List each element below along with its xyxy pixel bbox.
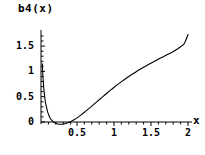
x-axis-title: x (193, 114, 200, 127)
x-axis-ticks (77, 122, 188, 126)
y-tick-label-0: 0 (0, 116, 34, 127)
x-tick-label-0.5: 0.5 (60, 127, 94, 138)
plot-figure: b4(x) (0, 0, 205, 155)
x-tick-label-1: 1 (97, 127, 131, 138)
data-series-curve (42, 34, 188, 124)
y-tick-label-1: 1 (0, 65, 34, 76)
x-tick-label-2: 2 (171, 127, 205, 138)
x-tick-label-1.5: 1.5 (134, 127, 168, 138)
y-tick-label-1.5: 1.5 (0, 40, 34, 51)
y-tick-label-0.5: 0.5 (0, 91, 34, 102)
